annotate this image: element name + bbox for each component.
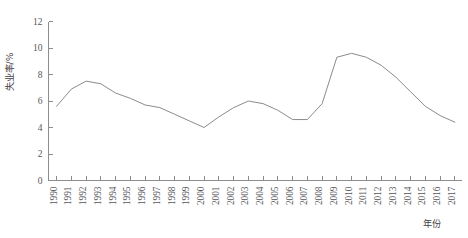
x-tick-label: 2016 bbox=[432, 186, 442, 205]
x-tick-label: 2008 bbox=[314, 186, 324, 205]
y-tick-label: 2 bbox=[38, 149, 43, 159]
y-tick-label: 4 bbox=[38, 123, 43, 133]
x-tick-label: 1999 bbox=[181, 186, 191, 205]
unemployment-rate-series bbox=[57, 53, 455, 127]
y-tick-marks bbox=[49, 22, 54, 181]
x-tick-label: 1997 bbox=[152, 186, 162, 205]
x-tick-label: 2002 bbox=[226, 186, 236, 205]
x-tick-label: 2005 bbox=[270, 186, 280, 205]
chart-canvas: 121086420 失业率/% 199019911992199319941995… bbox=[0, 0, 468, 238]
unemployment-rate-line-chart: 121086420 失业率/% 199019911992199319941995… bbox=[0, 0, 468, 238]
x-tick-label: 2017 bbox=[447, 186, 457, 205]
x-tick-label: 1990 bbox=[49, 186, 59, 205]
x-tick-label: 1993 bbox=[93, 186, 103, 205]
x-tick-label: 1991 bbox=[63, 186, 73, 205]
x-tick-label: 1994 bbox=[108, 186, 118, 205]
x-tick-label: 2001 bbox=[211, 186, 221, 205]
x-tick-label: 2000 bbox=[196, 186, 206, 205]
x-tick-label: 1996 bbox=[137, 186, 147, 205]
x-tick-label: 1998 bbox=[167, 186, 177, 205]
x-tick-label: 2012 bbox=[373, 186, 383, 205]
x-tick-label: 2014 bbox=[403, 186, 413, 205]
x-axis: 1990199119921993199419951996199719981999… bbox=[49, 176, 462, 229]
x-tick-label: 2011 bbox=[358, 186, 368, 205]
x-tick-labels: 1990199119921993199419951996199719981999… bbox=[49, 186, 457, 205]
y-tick-label: 12 bbox=[33, 17, 43, 27]
y-tick-label: 6 bbox=[38, 96, 43, 106]
y-tick-label: 10 bbox=[33, 43, 43, 53]
x-tick-label: 2009 bbox=[329, 186, 339, 205]
y-tick-label: 0 bbox=[38, 176, 43, 186]
x-tick-label: 2013 bbox=[388, 186, 398, 205]
y-tick-label: 8 bbox=[38, 70, 43, 80]
y-axis-title: 失业率/% bbox=[4, 52, 15, 91]
x-tick-marks bbox=[57, 176, 455, 181]
x-tick-label: 2015 bbox=[417, 186, 427, 205]
x-tick-label: 2006 bbox=[285, 186, 295, 205]
x-tick-label: 2007 bbox=[299, 186, 309, 205]
y-tick-labels: 121086420 bbox=[33, 17, 43, 186]
x-tick-label: 2004 bbox=[255, 186, 265, 205]
x-axis-title: 年份 bbox=[423, 218, 441, 229]
x-tick-label: 1995 bbox=[122, 186, 132, 205]
x-tick-label: 1992 bbox=[78, 186, 88, 205]
x-tick-label: 2003 bbox=[240, 186, 250, 205]
x-tick-label: 2010 bbox=[344, 186, 354, 205]
y-axis: 121086420 失业率/% bbox=[4, 17, 53, 186]
